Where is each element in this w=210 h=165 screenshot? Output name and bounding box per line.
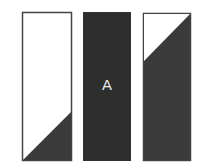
right-panel bbox=[144, 14, 191, 161]
panel-label-a: A bbox=[83, 76, 131, 93]
left-panel bbox=[23, 13, 72, 161]
